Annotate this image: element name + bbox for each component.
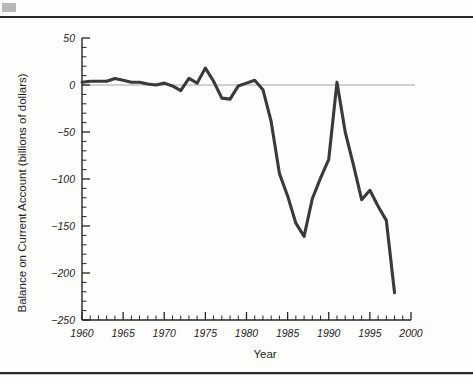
bottom-rule (0, 372, 473, 374)
x-tick-label: 1995 (358, 327, 382, 339)
y-axis-title: Balance on Current Account (billions of … (16, 73, 28, 312)
x-tick-label: 1975 (194, 327, 218, 339)
y-tick-label: −150 (51, 220, 75, 232)
x-tick-label: 2000 (398, 327, 423, 339)
x-tick-label: 1965 (111, 327, 135, 339)
line-chart: 500−50−100−150−200−250 19601965197019751… (0, 18, 473, 370)
figure-page: 500−50−100−150−200−250 19601965197019751… (0, 0, 473, 384)
y-tick-label: −50 (57, 126, 75, 138)
x-tick-label: 1980 (235, 327, 259, 339)
x-tick-label: 1970 (153, 327, 177, 339)
y-tick-label: 50 (63, 32, 75, 44)
y-tick-label: −200 (51, 267, 75, 279)
y-tick-label: −100 (51, 173, 75, 185)
x-tick-labels: 196019651970197519801985199019952000 (70, 327, 423, 339)
y-tick-label: 0 (69, 79, 75, 91)
x-axis-title: Year (253, 348, 276, 360)
y-tick-label: −250 (51, 314, 75, 326)
x-tick-label: 1960 (70, 327, 94, 339)
chart-figure: 500−50−100−150−200−250 19601965197019751… (0, 18, 473, 370)
x-tick-label: 1990 (317, 327, 341, 339)
page-corner-mark (2, 3, 16, 12)
x-tick-label: 1985 (276, 327, 300, 339)
